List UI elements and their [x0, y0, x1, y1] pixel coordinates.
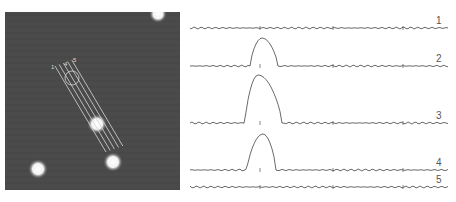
profile-trace-2 [190, 38, 448, 67]
caption-fragment [160, 194, 456, 202]
trace-label-5: 5 [436, 175, 442, 185]
profile-trace-3 [190, 75, 448, 124]
profile-trace-5 [190, 186, 448, 188]
profile-traces [190, 0, 456, 190]
trace-label-4: 4 [436, 158, 442, 168]
fluorescent-spot [28, 159, 48, 179]
fluorescent-spot [103, 152, 123, 172]
trace-label-2: 2 [436, 54, 442, 64]
trace-label-3: 3 [436, 111, 442, 121]
trace-label-1: 1 [436, 16, 442, 26]
profile-trace-4 [190, 134, 448, 171]
intensity-profiles-panel: 12345 [190, 0, 456, 190]
micrograph-panel: 145 [5, 12, 180, 190]
micrograph-image: 145 [5, 12, 180, 190]
profile-trace-1 [190, 27, 448, 29]
